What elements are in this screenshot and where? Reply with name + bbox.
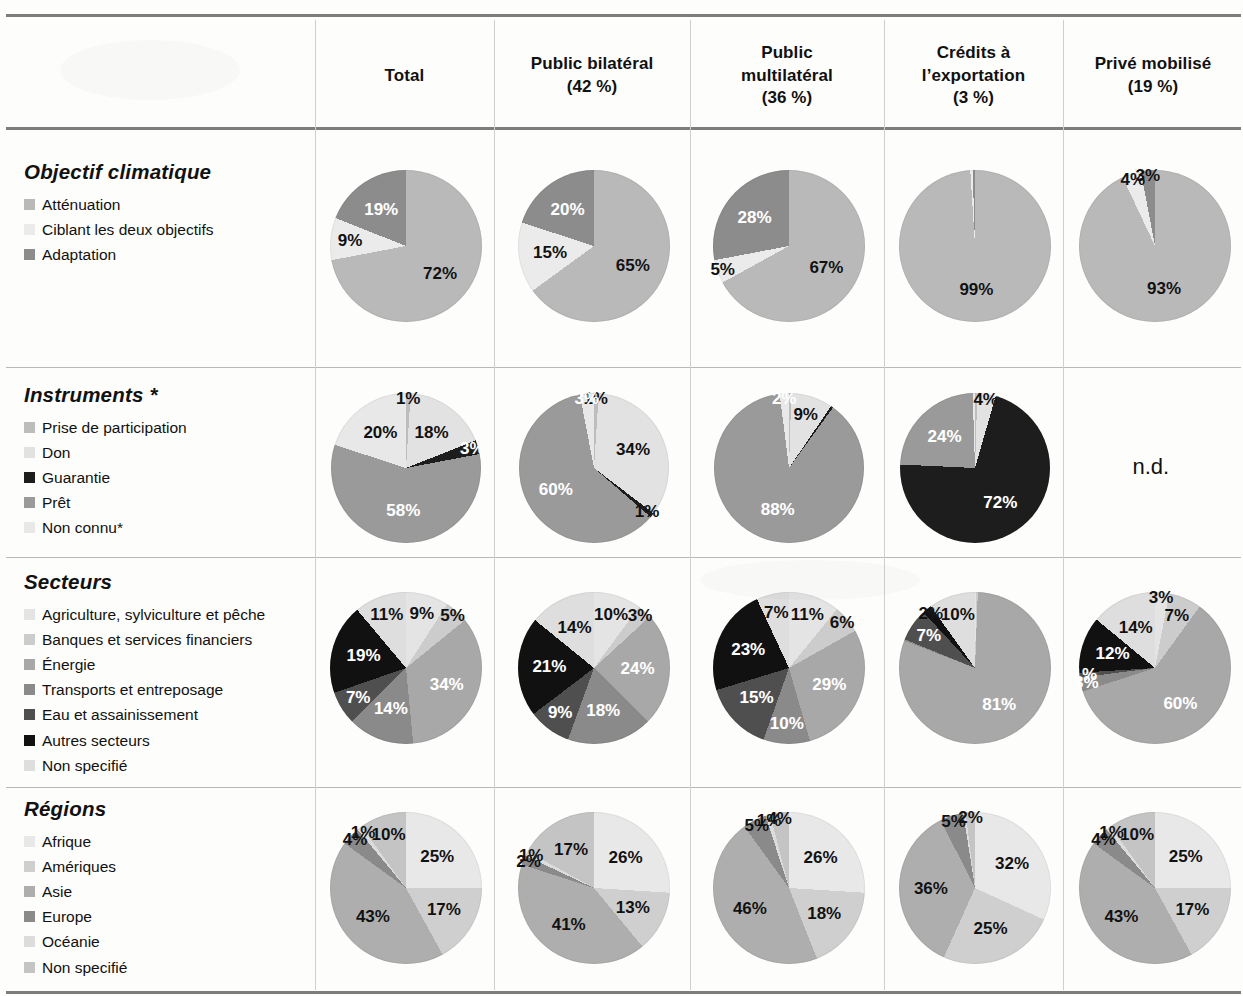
pie-slice-label: 3% — [460, 439, 485, 459]
pie-slice-label: 9% — [548, 703, 573, 723]
pie-slice-label: 2% — [919, 604, 944, 624]
pie-body: 65%15%20% — [518, 170, 670, 322]
column-header-credits-export: Crédits àl’exportation(3 %) — [884, 30, 1063, 122]
legend: AfriqueAmériquesAsieEuropeOcéanieNon spe… — [24, 829, 324, 980]
column-separator-4 — [884, 20, 885, 990]
column-header-label: Total — [385, 65, 425, 88]
pie-chart-regions-prive_mobilise: 25%17%43%4%1%10% — [1079, 812, 1231, 964]
section-divider-1 — [6, 367, 1241, 368]
section-title: Instruments * — [24, 383, 324, 407]
pie-chart-objectif-climatique-credits_export: 99% — [899, 170, 1051, 322]
section-divider-3 — [6, 787, 1241, 788]
pie-slice-label: 46% — [733, 899, 767, 919]
pie-slice-label: 34% — [430, 675, 464, 695]
legend-label: Autres secteurs — [42, 728, 150, 753]
legend-label: Eau et assainissement — [42, 702, 198, 727]
pie-slice-label: 6% — [830, 613, 855, 633]
pie-slice-label: 67% — [809, 258, 843, 278]
legend-swatch-icon — [24, 962, 35, 973]
pie-chart-regions-total: 25%17%43%4%1%10% — [330, 812, 482, 964]
column-header-label: Crédits àl’exportation(3 %) — [922, 42, 1025, 111]
legend-label: Europe — [42, 904, 92, 929]
legend-swatch-icon — [24, 422, 35, 433]
pie-slice-label: 5% — [440, 606, 465, 626]
legend-item: Europe — [24, 904, 324, 929]
legend-swatch-icon — [24, 249, 35, 260]
pie-slice-label: 25% — [973, 919, 1007, 939]
pie-slice-label: 1% — [396, 389, 421, 409]
legend-item: Énergie — [24, 652, 324, 677]
legend-item: Adaptation — [24, 242, 324, 267]
legend-item: Océanie — [24, 929, 324, 954]
pie-body: 67%5%28% — [713, 170, 865, 322]
column-header-label: Privé mobilisé(19 %) — [1095, 53, 1212, 99]
pie-slice-label: 99% — [959, 280, 993, 300]
legend-item: Eau et assainissement — [24, 702, 324, 727]
pie-slice-label: 24% — [927, 427, 961, 447]
pie-body: 1%18%3%58%20% — [331, 393, 481, 543]
legend-item: Ciblant les deux objectifs — [24, 217, 324, 242]
pie-chart-secteurs-total: 9%5%34%14%7%19%11% — [330, 592, 482, 744]
pie-slice-label: 60% — [539, 480, 573, 500]
pie-body: 32%25%36%5%2% — [899, 812, 1051, 964]
pie-chart-instruments-prive_mobilise: n.d. — [1080, 393, 1230, 543]
pie-slice-label: 41% — [552, 915, 586, 935]
legend-swatch-icon — [24, 447, 35, 458]
column-separator-2 — [494, 20, 495, 990]
legend-label: Guarantie — [42, 465, 110, 490]
legend-item: Agriculture, sylviculture et pêche — [24, 602, 324, 627]
pie-slice-label: 7% — [346, 688, 371, 708]
legend-label: Non specifié — [42, 753, 127, 778]
pie-slice-label: 2% — [772, 389, 797, 409]
pie-slice-label: 14% — [374, 699, 408, 719]
pie-slice-label: 1% — [635, 502, 660, 522]
legend-item: Asie — [24, 879, 324, 904]
pie-slice-label: 72% — [983, 493, 1017, 513]
pie-chart-secteurs-public_bilateral: 10%3%24%18%9%21%14% — [518, 592, 670, 744]
legend-label: Océanie — [42, 929, 100, 954]
pie-slice-label: 25% — [1169, 847, 1203, 867]
legend-label: Non connu* — [42, 515, 123, 540]
pie-body: 1%34%1%60%3% — [519, 393, 669, 543]
column-separator-5 — [1063, 20, 1064, 990]
pie-slice-label: 25% — [420, 847, 454, 867]
pie-chart-objectif-climatique-public_bilateral: 65%15%20% — [518, 170, 670, 322]
legend-item: Afrique — [24, 829, 324, 854]
pie-slice-label: 10% — [372, 825, 406, 845]
pie-body: 9%88%2% — [714, 393, 864, 543]
pie-slice-label: 7% — [917, 626, 942, 646]
pie-slice-label: 20% — [363, 423, 397, 443]
pie-slice-label: 3% — [628, 606, 653, 626]
legend-swatch-icon — [24, 634, 35, 645]
pie-slice-label: 1% — [519, 846, 544, 866]
pie-slice-label: 11% — [791, 605, 824, 625]
pie-slice-label: 15% — [533, 243, 567, 263]
legend-swatch-icon — [24, 760, 35, 771]
legend-swatch-icon — [24, 684, 35, 695]
header-bottom-rule — [6, 127, 1241, 130]
pie-chart-regions-public_bilateral: 26%13%41%2%1%17% — [518, 812, 670, 964]
pie-slice-label: 10% — [941, 605, 975, 625]
pie-slice-label: 36% — [914, 879, 948, 899]
pie-chart-instruments-credits_export: 4%72%24% — [900, 393, 1050, 543]
pie-slice-label: 18% — [807, 904, 841, 924]
pie-slice-label: 18% — [586, 701, 620, 721]
pie-slice-label: 14% — [558, 618, 592, 638]
pie-slice-label: 10% — [1120, 825, 1154, 845]
pie-slice-label: 26% — [609, 848, 643, 868]
pie-slice-label: 9% — [410, 604, 435, 624]
pie-chart-objectif-climatique-total: 72%9%19% — [330, 170, 482, 322]
pie-slice-label: 43% — [1104, 907, 1138, 927]
pie-body: 26%18%46%5%1%4% — [713, 812, 865, 964]
legend-label: Amériques — [42, 854, 116, 879]
pie-slice-label: 14% — [1119, 618, 1153, 638]
pie-slice-label: 34% — [616, 440, 650, 460]
pie-slice-label: 13% — [616, 898, 650, 918]
pie-slice-label: 9% — [793, 405, 818, 425]
legend-swatch-icon — [24, 886, 35, 897]
section-regions: RégionsAfriqueAmériquesAsieEuropeOcéanie… — [24, 797, 324, 980]
legend-label: Atténuation — [42, 192, 120, 217]
pie-slice-label: 17% — [554, 840, 588, 860]
legend-item: Transports et entreposage — [24, 677, 324, 702]
legend-label: Non specifié — [42, 955, 127, 980]
